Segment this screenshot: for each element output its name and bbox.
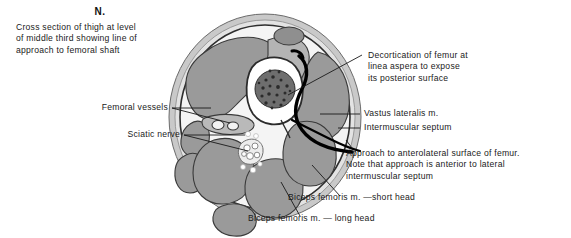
label-intermuscular-septum: Intermuscular septum [364,122,452,133]
label-biceps-femoris-long-head: Biceps femoris m. — long head [248,213,375,224]
sartorius-muscle [274,27,304,45]
label-vastus-lateralis: Vastus lateralis m. [364,108,438,119]
biceps-femoris-short-head-muscle [283,121,336,186]
figure-heading: N. [0,6,200,17]
figure-panel: N. Cross section of thigh at level of mi… [0,0,571,238]
label-femoral-vessels: Femoral vessels [20,102,168,113]
figure-caption-line-2: of middle third showing line of [16,33,201,44]
label-decortication-line-3: its posterior surface [368,73,468,84]
label-approach-note: Approach to anterolateral surface of fem… [346,148,520,182]
femoral-artery [212,121,224,130]
sciatic-nerve-bundle [238,139,263,164]
figure-caption-line-1: Cross section of thigh at level [16,22,201,33]
label-approach-note-line-1: Approach to anterolateral surface of fem… [346,148,520,159]
label-approach-note-line-2: Note that approach is anterior to latera… [346,159,520,170]
label-decortication-line-1: Decortication of femur at [368,50,468,61]
label-approach-note-line-3: intermuscular septum [346,171,520,182]
figure-caption: Cross section of thigh at level of middl… [16,22,201,56]
label-biceps-femoris-short-head: Biceps femoris m. —short head [288,192,415,203]
label-decortication: Decortication of femur at linea aspera t… [368,50,468,84]
label-decortication-line-2: linea aspera to expose [368,61,468,72]
label-sciatic-nerve: Sciatic nerve [30,129,180,140]
figure-caption-line-3: approach to femoral shaft [16,45,201,56]
